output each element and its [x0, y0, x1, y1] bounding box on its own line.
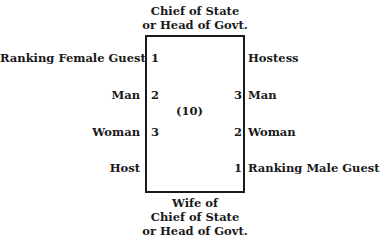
left-seat-label-3: Woman [0, 125, 140, 139]
head-bottom-line3: or Head of Govt. [120, 224, 270, 238]
head-top-line1: Chief of State [120, 4, 270, 18]
left-seat-number-2: 2 [151, 88, 159, 102]
left-seat-label-2: Man [0, 88, 140, 102]
right-seat-number-3: 2 [234, 125, 242, 139]
right-seat-number-2: 3 [234, 88, 242, 102]
right-seat-label-2: Man [248, 88, 277, 102]
left-seat-number-3: 3 [151, 125, 159, 139]
table-guest-count: (10) [176, 104, 203, 118]
right-seat-label-1: Hostess [248, 51, 299, 65]
head-bottom-line2: Chief of State [120, 210, 270, 224]
left-seat-number-1: 1 [151, 51, 159, 65]
left-seat-label-1: Ranking Female Guest [0, 51, 140, 65]
right-seat-label-3: Woman [248, 125, 296, 139]
left-seat-label-4: Host [0, 161, 140, 175]
head-top-line2: or Head of Govt. [120, 18, 270, 32]
right-seat-number-4: 1 [234, 161, 242, 175]
right-seat-label-4: Ranking Male Guest [248, 161, 380, 175]
head-bottom-line1: Wife of [120, 196, 270, 210]
